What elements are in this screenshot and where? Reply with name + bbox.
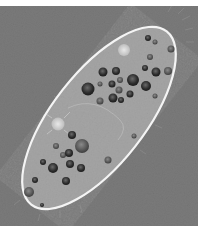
top-border <box>0 0 198 6</box>
paramecium-image <box>0 0 198 232</box>
micrograph-frame <box>0 0 198 232</box>
bottom-border <box>0 226 198 232</box>
contractile-vacuole-top <box>118 44 130 56</box>
contractile-vacuole-bottom <box>52 118 65 131</box>
